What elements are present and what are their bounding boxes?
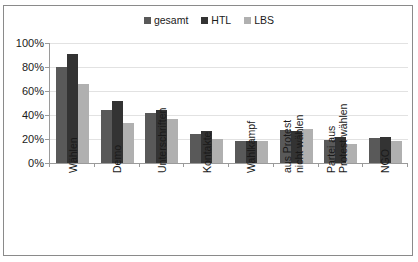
xtick-mark-4	[228, 163, 229, 167]
bar-waehlen-lbs[interactable]	[78, 84, 89, 163]
xlabel-partei-aus-protest-waehlen: Partei aus Protest wählen	[326, 104, 349, 173]
bar-wahlkampf-lbs[interactable]	[257, 141, 268, 163]
bar-ngo-lbs[interactable]	[391, 141, 402, 163]
xlabel-aus-protest-nicht-waehlen: aus Protest nicht wählen	[282, 115, 305, 173]
bar-unterschriften-gesamt[interactable]	[145, 113, 156, 163]
xlabel-ngo: NGO	[380, 149, 392, 173]
ytick-label-0: 0%	[6, 158, 44, 169]
xlabel-unterschriften: Unterschriften	[157, 108, 169, 173]
ytick-label-60: 60%	[6, 86, 44, 97]
ytick-label-40: 40%	[6, 110, 44, 121]
bar-unterschriften-lbs[interactable]	[167, 119, 178, 163]
xlabel-kontakte: Kontakte	[202, 132, 214, 173]
xlabel-wahlkampf: Wahlkampf	[246, 121, 258, 173]
bar-kontakte-lbs[interactable]	[212, 139, 223, 163]
chart-page: gesamt HTL LBS 100% 80% 60% 40% 20% 0%	[0, 0, 418, 262]
xlabel-demo: Demo	[112, 145, 124, 173]
plot-canvas	[49, 43, 408, 164]
bar-kontakte-gesamt[interactable]	[190, 134, 201, 163]
bar-waehlen-gesamt[interactable]	[56, 67, 67, 163]
ytick-label-20: 20%	[6, 134, 44, 145]
xtick-mark-5	[273, 163, 274, 167]
xtick-mark-7	[362, 163, 363, 167]
xtick-mark-6	[318, 163, 319, 167]
xlabel-waehlen: Wählen	[68, 137, 80, 173]
xtick-mark-1	[94, 163, 95, 167]
bar-demo-gesamt[interactable]	[101, 110, 112, 163]
xtick-mark-8	[407, 163, 408, 167]
bar-group-ngo	[363, 43, 408, 163]
xtick-mark-0	[49, 163, 50, 167]
page-top-strip	[0, 0, 418, 4]
ytick-label-100: 100%	[6, 38, 44, 49]
plot-area: 100% 80% 60% 40% 20% 0%	[4, 6, 414, 257]
xtick-mark-3	[183, 163, 184, 167]
bar-demo-lbs[interactable]	[123, 123, 134, 163]
xtick-mark-2	[139, 163, 140, 167]
ytick-label-80: 80%	[6, 62, 44, 73]
chart-frame: gesamt HTL LBS 100% 80% 60% 40% 20% 0%	[3, 5, 413, 256]
